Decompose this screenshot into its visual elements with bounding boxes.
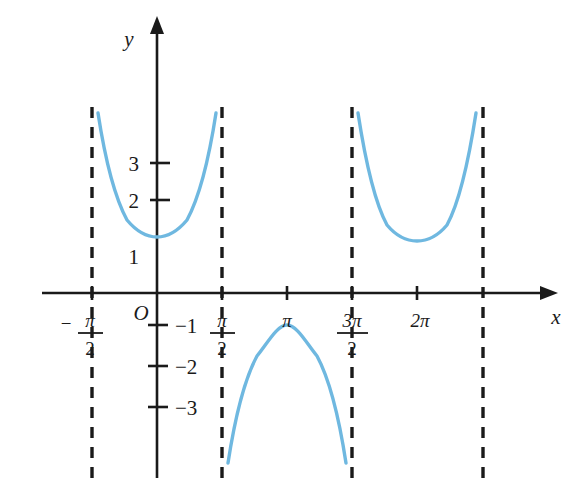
y-tick-label-3: 3 — [129, 152, 140, 176]
numerator-neg-pi-over-2: π — [85, 310, 95, 331]
tick-group — [92, 163, 417, 407]
denominator-neg-pi-over-2: 2 — [85, 338, 95, 359]
curve-branch-middle-lower — [228, 325, 346, 463]
graph-canvas: y x O 3 2 1 −1 −2 −3 − π 2 π 2 π 3π 2 — [0, 0, 586, 496]
axes-group — [42, 16, 558, 478]
y-axis-arrowhead — [150, 16, 164, 34]
x-tick-label-neg-pi-over-2: − π 2 — [61, 310, 103, 359]
origin-label: O — [133, 301, 148, 325]
x-tick-label-2pi: 2π — [410, 310, 430, 331]
y-axis-label: y — [122, 27, 134, 51]
y-tick-label-2: 2 — [129, 189, 140, 213]
x-axis-label: x — [550, 305, 561, 329]
y-tick-label-neg-3: −3 — [175, 396, 197, 420]
minus-sign-neg-pi-over-2: − — [61, 313, 72, 334]
x-tick-label-pi: π — [282, 310, 292, 331]
numerator-pi-over-2: π — [217, 310, 227, 331]
curve-branch-right-upper — [358, 113, 476, 241]
secant-graph-figure: y x O 3 2 1 −1 −2 −3 − π 2 π 2 π 3π 2 — [0, 0, 586, 496]
y-tick-label-neg-2: −2 — [175, 355, 197, 379]
y-tick-label-1: 1 — [129, 245, 140, 269]
numerator-3pi-over-2: 3π — [341, 310, 362, 331]
denominator-pi-over-2: 2 — [217, 338, 227, 359]
denominator-3pi-over-2: 2 — [347, 338, 357, 359]
x-axis-arrowhead — [540, 286, 558, 300]
y-tick-label-neg-1: −1 — [175, 314, 197, 338]
